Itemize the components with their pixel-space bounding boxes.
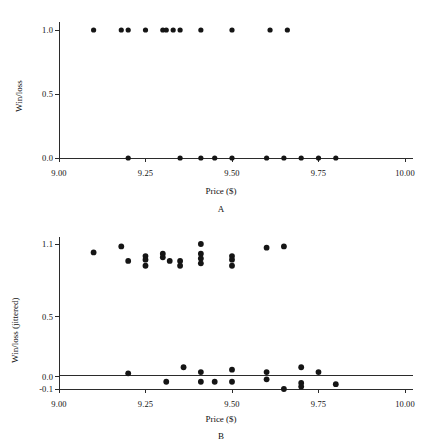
data-point xyxy=(229,27,234,32)
plot-area-b: Win/loss (jittered) Price ($) B 9.009.25… xyxy=(0,223,441,446)
x-tick-label: 9.50 xyxy=(224,399,239,409)
x-tick-label: 9.50 xyxy=(224,168,239,178)
data-point xyxy=(264,376,270,382)
data-point xyxy=(143,257,149,263)
data-point xyxy=(178,27,183,32)
y-tick-label: 0.0 xyxy=(25,153,53,163)
data-point xyxy=(198,260,204,266)
panel-label-a: A xyxy=(218,204,225,214)
y-tick-label: 0.5 xyxy=(25,89,53,99)
data-point xyxy=(164,27,169,32)
y-tick-label: 1.1 xyxy=(25,239,53,249)
data-point xyxy=(143,27,148,32)
data-point xyxy=(298,384,304,390)
plot-area-a: Win/loss Price ($) A 9.009.259.509.7510.… xyxy=(0,0,441,223)
data-point xyxy=(119,27,124,32)
axes-b xyxy=(59,237,413,389)
data-point xyxy=(198,27,203,32)
data-point xyxy=(333,155,338,160)
x-tick-label: 9.75 xyxy=(311,168,326,178)
data-point xyxy=(298,364,304,370)
data-point xyxy=(178,155,183,160)
data-point xyxy=(163,379,169,385)
y-tick-label: -0.1 xyxy=(25,384,53,394)
data-point xyxy=(264,155,269,160)
data-point xyxy=(198,155,203,160)
axes-a xyxy=(59,22,413,158)
x-axis-title-a: Price ($) xyxy=(205,186,236,196)
data-point xyxy=(118,244,124,250)
data-point xyxy=(91,250,97,256)
data-point xyxy=(316,155,321,160)
data-point xyxy=(181,364,187,370)
data-point xyxy=(229,367,235,373)
data-point xyxy=(264,369,270,375)
data-point xyxy=(281,155,286,160)
data-point xyxy=(229,263,235,269)
x-tick-label: 9.25 xyxy=(138,168,153,178)
data-point xyxy=(171,27,176,32)
data-point xyxy=(212,379,218,385)
data-point xyxy=(299,155,304,160)
data-point xyxy=(125,370,131,376)
data-point xyxy=(91,27,96,32)
data-point xyxy=(281,244,287,250)
data-point xyxy=(281,386,287,392)
panel-a: Win/loss Price ($) A 9.009.259.509.7510.… xyxy=(0,0,441,223)
x-tick-label: 10.00 xyxy=(395,399,415,409)
data-point xyxy=(167,258,173,264)
data-point xyxy=(267,27,272,32)
x-axis-title-b: Price ($) xyxy=(205,414,236,424)
data-point xyxy=(264,245,270,251)
data-point xyxy=(229,379,235,385)
data-point xyxy=(212,155,217,160)
y-axis-label-a: Win/loss xyxy=(14,80,24,112)
data-point xyxy=(198,241,204,247)
panel-label-b: B xyxy=(218,431,224,441)
panel-b: Win/loss (jittered) Price ($) B 9.009.25… xyxy=(0,223,441,446)
data-point xyxy=(126,155,131,160)
data-point xyxy=(198,379,204,385)
tick-marks-a xyxy=(55,30,405,162)
x-tick-label: 10.00 xyxy=(395,168,415,178)
y-axis-label-b: Win/loss (jittered) xyxy=(10,298,20,363)
data-point xyxy=(177,263,183,269)
data-point xyxy=(316,369,322,375)
data-point xyxy=(126,27,131,32)
data-point xyxy=(229,257,235,263)
y-tick-label: 0.0 xyxy=(25,372,53,382)
data-point xyxy=(160,254,166,260)
x-tick-label: 9.00 xyxy=(51,399,66,409)
x-tick-label: 9.25 xyxy=(138,399,153,409)
data-point xyxy=(143,263,149,269)
data-point xyxy=(229,155,234,160)
data-points-b xyxy=(91,241,339,392)
y-tick-label: 1.0 xyxy=(25,25,53,35)
data-points-a xyxy=(91,27,338,160)
scatter-svg-b xyxy=(0,223,441,446)
x-tick-label: 9.75 xyxy=(311,399,326,409)
data-point xyxy=(285,27,290,32)
data-point xyxy=(333,381,339,387)
x-tick-label: 9.00 xyxy=(51,168,66,178)
data-point xyxy=(125,258,131,264)
y-tick-label: 0.5 xyxy=(25,312,53,322)
data-point xyxy=(198,369,204,375)
